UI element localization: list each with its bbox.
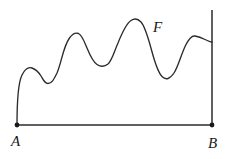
oscillating-curve-figure: A B F [0, 0, 232, 159]
label-f: F [152, 19, 163, 35]
curve-F-path [17, 19, 212, 125]
label-a: A [10, 133, 21, 149]
label-b: B [208, 135, 217, 151]
endpoint-dot-b [210, 123, 215, 128]
endpoint-dot-a [15, 123, 20, 128]
